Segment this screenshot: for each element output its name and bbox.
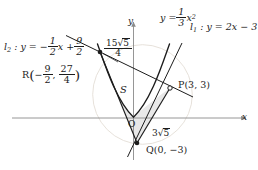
point-R-label: R(−92, 274) (22, 64, 80, 84)
region-S-label: S (120, 85, 127, 95)
line-l1-equation-label: l1 : y = 2x − 3 (190, 22, 257, 33)
chord-RQ (100, 52, 137, 143)
x-axis-label: x (242, 113, 247, 122)
point-R-marker (98, 50, 103, 55)
point-Q-marker (135, 141, 140, 146)
point-P-marker (168, 86, 172, 90)
origin-label: O (128, 120, 135, 129)
point-Q-label: Q(0, −3) (146, 145, 187, 155)
segment-PQ-length-label: 3√5 (152, 128, 170, 138)
segment-RQ-length-label: 15√5 4 (104, 38, 132, 58)
y-axis-label: y (128, 17, 133, 26)
point-P-label: P(3, 3) (178, 80, 210, 90)
line-l2-equation-label: l2 : y = −12x +92 (4, 36, 84, 56)
geometry-figure: l2 : y = −12x +92 R(−92, 274) 15√5 4 y =… (0, 0, 258, 170)
